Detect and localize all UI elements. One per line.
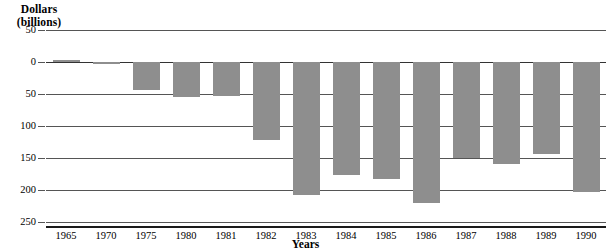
- y-tick-label: 150: [0, 153, 36, 164]
- y-tick-label: 250: [0, 217, 36, 228]
- y-tick-mark: [38, 126, 45, 127]
- y-tick-mark: [38, 190, 45, 191]
- bar-1965: [53, 60, 80, 62]
- bar-1988: [493, 62, 520, 164]
- bar-1984: [333, 62, 360, 175]
- y-tick-label: 50: [0, 25, 36, 36]
- bar-1982: [253, 62, 280, 140]
- x-axis-title: Years: [0, 239, 611, 250]
- bar-series: [46, 30, 606, 222]
- bar-1987: [453, 62, 480, 158]
- y-tick-label: 50: [0, 89, 36, 100]
- x-axis-rule: [46, 226, 606, 228]
- y-tick-label: 200: [0, 185, 36, 196]
- y-tick-mark: [38, 158, 45, 159]
- y-tick-label: 100: [0, 121, 36, 132]
- bar-1990: [573, 62, 600, 192]
- plot-area: 50050100150200250: [46, 30, 606, 222]
- y-tick-mark: [38, 94, 45, 95]
- y-tick-mark: [38, 62, 45, 63]
- chart-figure: Dollars (billions) 50050100150200250 196…: [0, 0, 611, 250]
- bar-1980: [173, 62, 200, 97]
- y-tick-label: 0: [0, 57, 36, 68]
- bar-1989: [533, 62, 560, 154]
- bar-1975: [133, 62, 160, 90]
- bar-1985: [373, 62, 400, 179]
- y-axis-title-line1: Dollars: [21, 3, 57, 15]
- y-tick-mark: [38, 30, 45, 31]
- y-tick-mark: [38, 222, 45, 223]
- bar-1983: [293, 62, 320, 195]
- bar-1970: [93, 62, 120, 64]
- bar-1981: [213, 62, 240, 96]
- x-axis-rule-thin: [46, 222, 606, 223]
- bar-1986: [413, 62, 440, 203]
